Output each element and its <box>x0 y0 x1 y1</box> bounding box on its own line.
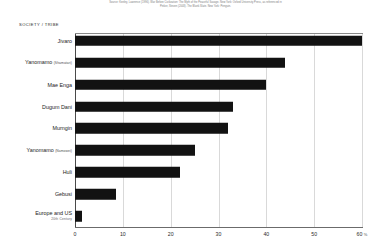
category-label: Jivaro <box>0 38 75 44</box>
bar-track <box>75 52 391 73</box>
x-tick-label-40: 40 <box>263 231 269 237</box>
table-row: Murngin <box>0 118 391 140</box>
table-row: Dugum Dani <box>0 96 391 118</box>
x-tick-label-0: 0 <box>74 231 77 237</box>
bar-track <box>75 96 391 117</box>
bar-track <box>75 118 391 139</box>
source-citation-line-2: Pinker, Steven (2003). The Blank Slate. … <box>0 5 391 9</box>
table-row: Europe and US20th Century <box>0 205 391 227</box>
x-tick-label-30: 30 <box>216 231 222 237</box>
bar-track <box>75 183 391 204</box>
table-row: Jivaro <box>0 30 391 52</box>
category-label-paren: (Namowei) <box>55 149 72 153</box>
bar-track <box>75 30 391 51</box>
bar-rows: JivaroYanomamo (Shamatari)Mae EngaDugum … <box>0 30 391 227</box>
x-tick-label-50: 50 <box>311 231 317 237</box>
bar <box>75 36 362 47</box>
bar <box>75 58 285 69</box>
x-axis-ticks: 0102030405060% <box>0 231 391 245</box>
bar-track <box>75 162 391 183</box>
x-tick-label-20: 20 <box>168 231 174 237</box>
bar <box>75 189 116 200</box>
table-row: Yanomamo (Namowei) <box>0 139 391 161</box>
x-tick-label-10: 10 <box>120 231 126 237</box>
y-axis-title: SOCIETY / TRIBE <box>19 22 59 27</box>
category-label: Mae Enga <box>0 82 75 88</box>
table-row: Yanomamo (Shamatari) <box>0 52 391 74</box>
bar <box>75 79 266 90</box>
x-axis-line <box>75 227 363 228</box>
category-label: Yanomamo (Shamatari) <box>0 59 75 66</box>
category-label: Yanomamo (Namowei) <box>0 147 75 154</box>
category-label: Gebusi <box>0 191 75 197</box>
bar <box>75 145 195 156</box>
source-citation: Source: Keeley, Lawrence (1996). War Bef… <box>0 0 391 8</box>
bar <box>75 211 82 222</box>
x-axis-unit: % <box>364 232 368 237</box>
bar-chart: JivaroYanomamo (Shamatari)Mae EngaDugum … <box>0 30 391 251</box>
bar-track <box>75 140 391 161</box>
x-tick-label-60: 60% <box>357 231 368 237</box>
category-label: Dugum Dani <box>0 104 75 110</box>
table-row: Gebusi <box>0 183 391 205</box>
bar <box>75 101 233 112</box>
category-label-paren: (Shamatari) <box>54 61 72 65</box>
bar <box>75 123 228 134</box>
category-label: Huli <box>0 169 75 175</box>
bar <box>75 167 180 178</box>
bar-track <box>75 74 391 95</box>
bar-track <box>75 205 391 226</box>
table-row: Huli <box>0 161 391 183</box>
category-label: Europe and US20th Century <box>0 210 75 223</box>
category-label: Murngin <box>0 125 75 131</box>
category-label-sub: 20th Century <box>0 216 72 222</box>
table-row: Mae Enga <box>0 74 391 96</box>
